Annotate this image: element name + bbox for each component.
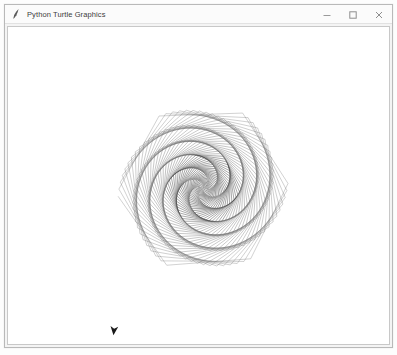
turtle-drawing-canvas[interactable] xyxy=(8,27,389,344)
python-feather-icon xyxy=(11,8,22,20)
minimize-button[interactable] xyxy=(314,5,340,24)
maximize-button[interactable] xyxy=(340,5,366,24)
minimize-icon xyxy=(321,9,333,21)
maximize-icon xyxy=(347,9,359,21)
close-icon xyxy=(373,9,385,21)
spirograph-drawing xyxy=(8,27,390,345)
canvas-frame xyxy=(7,26,390,345)
turtle-graphics-window: Python Turtle Graphics xyxy=(4,4,393,348)
screen-root: Python Turtle Graphics xyxy=(0,0,397,355)
window-controls xyxy=(314,5,392,24)
close-button[interactable] xyxy=(366,5,392,24)
window-titlebar[interactable]: Python Turtle Graphics xyxy=(5,5,392,24)
window-title: Python Turtle Graphics xyxy=(27,10,106,19)
turtle-cursor xyxy=(110,326,119,336)
